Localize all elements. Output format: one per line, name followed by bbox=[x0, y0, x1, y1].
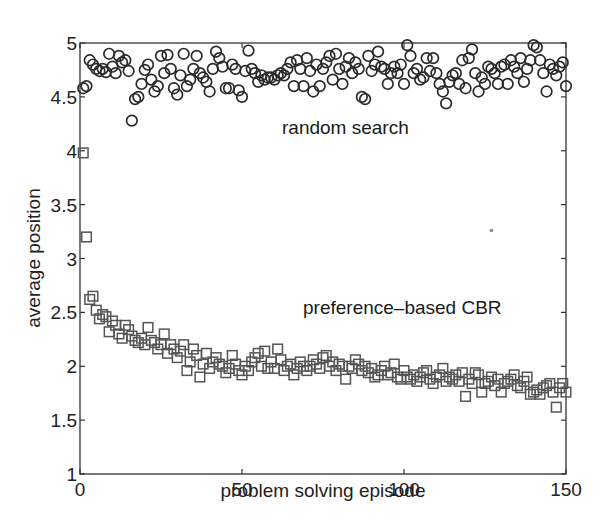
data-point-circle bbox=[233, 85, 244, 96]
data-point-circle bbox=[405, 51, 416, 62]
data-point-circle bbox=[162, 50, 173, 61]
data-point-circle bbox=[334, 64, 345, 75]
data-point-circle bbox=[285, 57, 296, 68]
data-point-circle bbox=[211, 46, 222, 57]
stray-dot bbox=[490, 229, 494, 233]
x-axis-title: problem solving episode bbox=[221, 480, 426, 501]
data-point-circle bbox=[360, 94, 371, 105]
series-preference-based-cbr bbox=[78, 148, 570, 412]
data-point-circle bbox=[243, 45, 254, 56]
data-point-square bbox=[159, 329, 169, 339]
data-point-circle bbox=[541, 86, 552, 97]
plot-border bbox=[80, 43, 566, 474]
data-point-square bbox=[179, 340, 189, 350]
data-point-circle bbox=[104, 48, 115, 59]
data-point-circle bbox=[418, 72, 429, 83]
data-point-circle bbox=[399, 79, 410, 90]
data-point-circle bbox=[204, 86, 215, 97]
data-point-circle bbox=[302, 53, 313, 64]
data-point-circle bbox=[127, 115, 138, 126]
x-axis: 050100150 bbox=[75, 43, 582, 500]
data-point-circle bbox=[169, 83, 180, 94]
y-tick-label: 4.5 bbox=[51, 87, 77, 108]
x-tick-label: 0 bbox=[75, 479, 86, 500]
data-point-circle bbox=[383, 79, 394, 90]
data-point-square bbox=[143, 323, 153, 333]
data-point-circle bbox=[172, 89, 183, 100]
data-point-square bbox=[551, 402, 561, 412]
data-point-circle bbox=[389, 61, 400, 72]
data-point-square bbox=[461, 392, 471, 402]
stray-marks bbox=[490, 229, 494, 233]
data-point-circle bbox=[191, 51, 202, 62]
data-point-circle bbox=[208, 64, 219, 75]
data-point-circle bbox=[81, 81, 92, 92]
x-tick-label: 150 bbox=[550, 479, 582, 500]
annotation-random-search: random search bbox=[282, 117, 409, 138]
data-point-circle bbox=[133, 92, 144, 103]
series-random-search bbox=[78, 40, 571, 126]
y-tick-label: 3.5 bbox=[51, 195, 77, 216]
data-point-circle bbox=[337, 79, 348, 90]
data-point-square bbox=[85, 295, 95, 305]
y-tick-label: 2.5 bbox=[51, 302, 77, 323]
data-point-circle bbox=[237, 92, 248, 103]
data-point-circle bbox=[451, 68, 462, 79]
y-tick-label: 4 bbox=[66, 141, 77, 162]
data-point-circle bbox=[305, 66, 316, 77]
data-point-square bbox=[266, 357, 276, 367]
annotation-preference-based-cbr: preference–based CBR bbox=[303, 297, 502, 318]
data-point-circle bbox=[431, 68, 442, 79]
data-point-square bbox=[88, 291, 98, 301]
data-point-square bbox=[273, 344, 283, 354]
data-point-circle bbox=[324, 51, 335, 62]
y-tick-label: 5 bbox=[66, 33, 77, 54]
data-point-circle bbox=[519, 76, 530, 87]
data-point-circle bbox=[331, 48, 342, 59]
data-point-circle bbox=[178, 48, 189, 59]
scatter-chart: 11.522.533.544.55 050100150 random searc… bbox=[0, 0, 606, 521]
data-point-square bbox=[104, 327, 114, 337]
y-axis: 11.522.533.544.55 bbox=[51, 33, 566, 485]
data-point-circle bbox=[123, 66, 134, 77]
data-point-circle bbox=[457, 55, 468, 66]
data-point-circle bbox=[441, 98, 452, 109]
data-point-circle bbox=[146, 74, 157, 85]
y-axis-title: average position bbox=[23, 188, 44, 327]
data-point-circle bbox=[279, 70, 290, 81]
data-point-square bbox=[189, 344, 199, 354]
data-point-circle bbox=[185, 74, 196, 85]
data-point-circle bbox=[428, 53, 439, 64]
y-tick-label: 3 bbox=[66, 249, 77, 270]
data-point-circle bbox=[373, 46, 384, 57]
y-tick-label: 2 bbox=[66, 356, 77, 377]
plot-frame bbox=[80, 43, 566, 474]
data-point-circle bbox=[321, 57, 332, 68]
data-point-circle bbox=[425, 66, 436, 77]
data-point-circle bbox=[515, 53, 526, 64]
data-point-circle bbox=[182, 81, 193, 92]
data-point-square bbox=[341, 374, 351, 384]
data-point-circle bbox=[240, 66, 251, 77]
data-point-square bbox=[82, 232, 92, 242]
y-tick-label: 1.5 bbox=[51, 410, 77, 431]
data-point-circle bbox=[480, 79, 491, 90]
data-point-square bbox=[195, 372, 205, 382]
